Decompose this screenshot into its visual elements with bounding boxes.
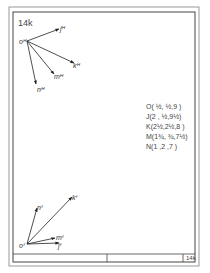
- point-n: N(1 ,2 ,7 ): [146, 142, 188, 152]
- point-o: O( ½, ½,9 ): [146, 102, 188, 112]
- label-m-h: mᴴ: [54, 73, 64, 80]
- label-k-h: kᴴ: [73, 62, 81, 69]
- sheet-id-label: 14k: [18, 18, 33, 28]
- label-j-f: jᶠ: [57, 242, 63, 250]
- label-n-h: nᴴ: [37, 86, 45, 93]
- title-block-id: 14k: [186, 255, 196, 261]
- point-m: M(1¾, ¾,7½): [146, 132, 188, 142]
- label-o-h: oᴴ: [19, 38, 27, 45]
- point-j: J(2 , ½,9½): [146, 112, 188, 122]
- points-list: O( ½, ½,9 ) J(2 , ½,9½) K(2½,2½,8 ) M(1¾…: [146, 102, 188, 152]
- label-n-f: nᶠ: [37, 204, 44, 211]
- horizontal-projection: [27, 29, 74, 84]
- frontal-projection: [27, 197, 72, 244]
- label-m-f: mᶠ: [56, 234, 65, 241]
- point-k: K(2½,2½,8 ): [146, 122, 188, 132]
- label-j-h: jᴴ: [59, 25, 66, 33]
- label-k-f: kᶠ: [72, 194, 79, 201]
- label-o-f: oᶠ: [19, 242, 26, 249]
